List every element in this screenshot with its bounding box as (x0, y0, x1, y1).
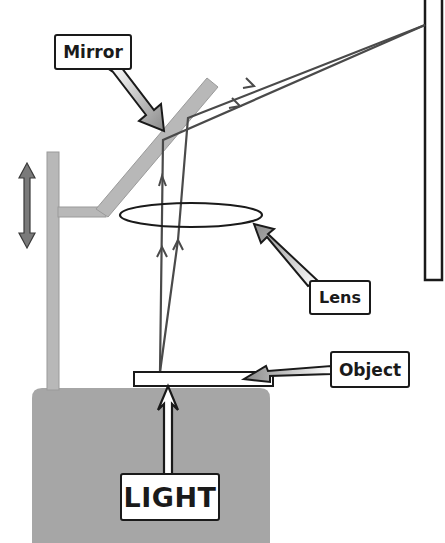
lens-label: Lens (309, 280, 371, 315)
object-pointer-arrow (244, 366, 331, 382)
lens (120, 203, 262, 227)
projector-diagram: Mirror Lens Object LIGHT (0, 0, 445, 543)
light-label: LIGHT (120, 473, 220, 521)
mirror (96, 78, 218, 217)
ray-2 (160, 25, 425, 372)
lens-pointer-arrow (254, 224, 318, 286)
object-label: Object (330, 351, 410, 388)
light-rays (157, 25, 425, 372)
support-post (47, 152, 106, 390)
height-adjust-arrow-icon (19, 163, 35, 248)
mirror-label: Mirror (54, 34, 132, 70)
screen (425, 0, 442, 280)
diagram-canvas (0, 0, 445, 543)
mirror-pointer-arrow (110, 67, 164, 131)
